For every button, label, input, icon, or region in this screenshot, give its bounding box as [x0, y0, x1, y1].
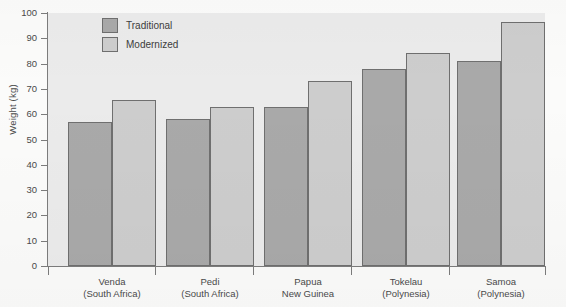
group-separator-4: [351, 266, 352, 275]
y-tick-70: [41, 89, 48, 90]
group-separator-5: [449, 266, 450, 275]
y-tick-label-80: 80: [0, 59, 37, 69]
y-tick-60: [41, 114, 48, 115]
y-tick-80: [41, 64, 48, 65]
group-separator-3: [253, 266, 254, 275]
y-tick-label-20: 20: [0, 210, 37, 220]
bar-traditional-1: [68, 122, 112, 266]
y-tick-50: [41, 140, 48, 141]
legend-label-modernized: Modernized: [126, 39, 178, 50]
y-tick-label-70: 70: [0, 84, 37, 94]
bar-modernized-5: [501, 22, 545, 266]
bar-modernized-1: [112, 100, 156, 266]
bar-modernized-2: [210, 107, 254, 266]
x-axis-line: [47, 266, 545, 267]
y-tick-20: [41, 215, 48, 216]
y-tick-40: [41, 165, 48, 166]
y-tick-label-50: 50: [0, 135, 37, 145]
category-label-line1: Pedi: [200, 276, 219, 287]
group-separator-1: [48, 266, 49, 275]
bar-modernized-4: [406, 53, 450, 266]
category-label-line1: Samoa: [486, 276, 516, 287]
category-label-line1: Tokelau: [390, 276, 423, 287]
y-tick-100: [41, 13, 48, 14]
y-tick-label-0: 0: [0, 261, 37, 271]
y-tick-label-40: 40: [0, 160, 37, 170]
y-tick-30: [41, 190, 48, 191]
legend-label-traditional: Traditional: [126, 20, 172, 31]
y-tick-label-90: 90: [0, 33, 37, 43]
y-tick-label-100: 100: [0, 8, 37, 18]
y-tick-label-30: 30: [0, 185, 37, 195]
y-tick-0: [41, 266, 48, 267]
bar-modernized-3: [308, 81, 352, 266]
bar-traditional-3: [264, 107, 308, 266]
bar-traditional-5: [457, 61, 501, 266]
y-tick-label-10: 10: [0, 236, 37, 246]
category-label-line1: Papua: [294, 276, 321, 287]
legend: Traditional Modernized: [102, 18, 178, 56]
category-label-line1: Venda: [99, 276, 126, 287]
legend-swatch-modernized-icon: [102, 37, 118, 52]
group-separator-2: [155, 266, 156, 275]
group-separator-6: [545, 266, 546, 275]
y-tick-label-60: 60: [0, 109, 37, 119]
y-tick-10: [41, 241, 48, 242]
legend-item-modernized: Modernized: [102, 37, 178, 52]
legend-item-traditional: Traditional: [102, 18, 178, 33]
bar-traditional-2: [166, 119, 210, 266]
bar-traditional-4: [362, 69, 406, 266]
category-label-line2: (Polynesia): [441, 288, 561, 300]
category-label-5: Samoa(Polynesia): [441, 276, 561, 299]
bar-chart: Weight (kg) 0102030405060708090100 Venda…: [0, 0, 566, 307]
y-tick-90: [41, 38, 48, 39]
legend-swatch-traditional-icon: [102, 18, 118, 33]
